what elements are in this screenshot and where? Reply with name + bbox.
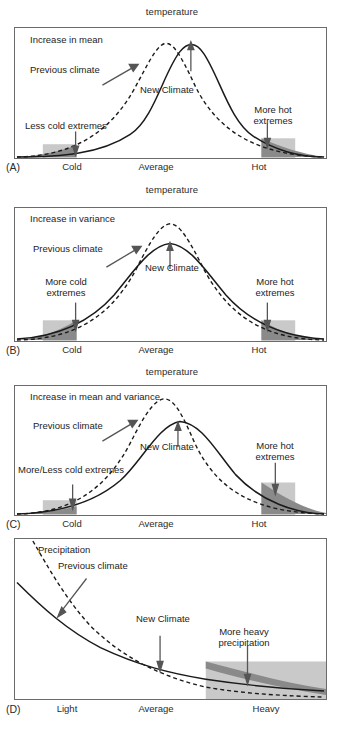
arrowhead-new-a [188,42,194,50]
right-extreme-b: More hot extremes [238,276,312,298]
xtick-c-2: Hot [232,518,286,529]
xtick-c-1: Average [125,518,187,529]
xtick-b-1: Average [125,344,187,355]
arrow-previous-c [102,423,132,441]
axis-title-c: temperature [0,366,344,377]
panel-b [14,207,327,342]
xtick-b-2: Hot [232,344,286,355]
panel-b-plot [15,208,326,341]
arrow-previous-a [102,67,133,85]
panel-label-d: (D) [6,703,21,715]
headline-a: Increase in mean [30,34,103,45]
xtick-d-0: Light [36,703,98,714]
xtick-d-1: Average [125,703,187,714]
arrow-previous-d [61,579,87,613]
arrowhead-prev-b [132,246,141,253]
xtick-a-0: Cold [42,161,102,172]
arrowhead-prev-a [129,64,138,71]
left-extreme-b: More cold extremes [28,276,104,298]
left-extreme-c: More/Less cold extremes [18,464,124,475]
xtick-d-2: Heavy [238,703,294,714]
new-label-d: New Climate [136,613,190,624]
panel-label-b: (B) [6,344,20,356]
previous-label-a: Previous climate [30,64,100,75]
xtick-a-2: Hot [232,161,286,172]
right-extreme-a: More hot extremes [238,104,308,126]
new-label-b: New Climate [145,262,199,273]
arrow-previous-b [106,249,136,267]
climate-distribution-figure: temperature [0,0,344,729]
arrowhead-new-c [175,422,181,430]
xtick-b-0: Cold [42,344,102,355]
panel-label-a: (A) [6,161,20,173]
headline-d: Precipitation [38,544,90,555]
new-label-c: New Climate [140,441,194,452]
right-extreme-c: More hot extremes [238,440,312,462]
new-label-a: New Climate [140,84,194,95]
arrowhead-prev-d [58,607,66,617]
arrowhead-prev-c [128,420,137,427]
xtick-a-1: Average [125,161,187,172]
previous-label-d: Previous climate [58,560,128,571]
previous-label-c: Previous climate [33,420,103,431]
right-extreme-d: More heavy precipitation [202,626,286,648]
headline-b: Increase in variance [30,213,115,224]
panel-label-c: (C) [6,518,21,530]
headline-c: Increase in mean and variance [30,391,160,402]
previous-label-b: Previous climate [33,243,103,254]
xtick-c-0: Cold [42,518,102,529]
axis-title-top: temperature [0,6,344,17]
axis-title-b: temperature [0,184,344,195]
left-extreme-a: Less cold extremes [25,120,107,131]
